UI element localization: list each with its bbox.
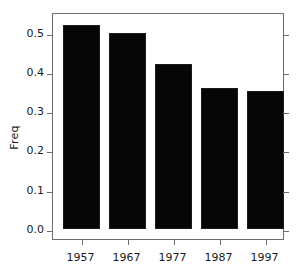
y-tick-label-0.5: 0.5	[6, 28, 44, 39]
y-tick-label-0.1: 0.1	[6, 185, 44, 196]
y-tick-label-0.0: 0.0	[6, 224, 44, 235]
bar-chart: Freq 195719671977198719970.00.10.20.30.4…	[0, 0, 300, 275]
axis-labels-layer: 195719671977198719970.00.10.20.30.40.5	[0, 0, 300, 275]
x-tick-label-1997: 1997	[235, 252, 295, 263]
y-tick-label-0.3: 0.3	[6, 106, 44, 117]
y-tick-label-0.2: 0.2	[6, 145, 44, 156]
y-tick-label-0.4: 0.4	[6, 67, 44, 78]
